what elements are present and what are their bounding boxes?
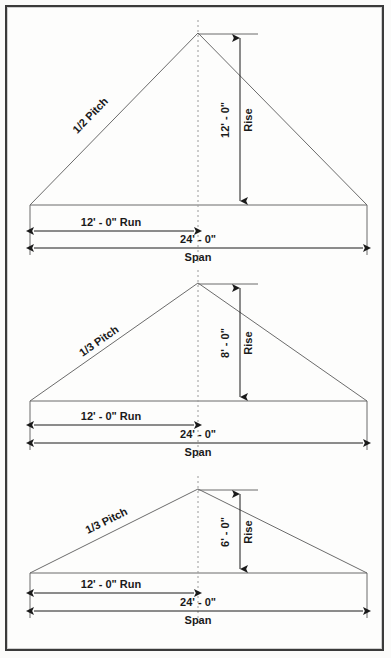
run-value-text: 12' - 0" Run — [81, 216, 142, 228]
span-label-text: Span — [185, 614, 212, 626]
pitch-label-text: 1/3 Pitch — [83, 505, 129, 536]
diagram-pitch-half: 12' - 0" Rise 1/2 Pitch 12' - 0" Run 24'… — [30, 20, 367, 263]
run-value-text: 12' - 0" Run — [81, 410, 142, 422]
span-value-text: 24' - 0" — [180, 596, 216, 608]
span-value-text: 24' - 0" — [180, 428, 216, 440]
roof-pitch-diagram-group: 12' - 0" Rise 1/2 Pitch 12' - 0" Run 24'… — [0, 0, 391, 658]
span-label-text: Span — [185, 251, 212, 263]
run-value-text: 12' - 0" Run — [81, 578, 142, 590]
diagram-pitch-third-6: 6' - 0" Rise 1/3 Pitch 12' - 0" Run 24' … — [30, 476, 367, 626]
rise-value-text: 12' - 0" — [219, 102, 231, 138]
rise-value-text: 6' - 0" — [219, 517, 231, 547]
diagram-pitch-third-8: 8' - 0" Rise 1/3 Pitch 12' - 0" Run 24' … — [30, 270, 367, 458]
span-label-text: Span — [185, 446, 212, 458]
rise-value-text: 8' - 0" — [219, 328, 231, 358]
rise-label-text: Rise — [242, 108, 254, 131]
rise-label-text: Rise — [242, 520, 254, 543]
page-root: 12' - 0" Rise 1/2 Pitch 12' - 0" Run 24'… — [0, 0, 391, 658]
span-value-text: 24' - 0" — [180, 233, 216, 245]
rise-label-text: Rise — [242, 331, 254, 354]
